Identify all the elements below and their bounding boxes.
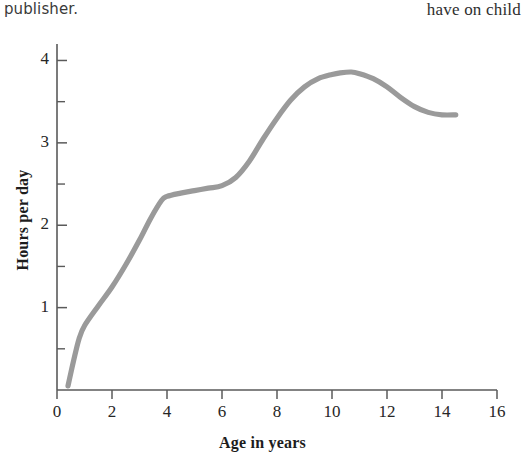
text-fragment-have-on-child: have on child bbox=[427, 0, 521, 20]
y-axis-title: Hours per day bbox=[14, 135, 32, 305]
chart-figure: 0246810121416 1234 Age in years Hours pe… bbox=[0, 26, 525, 466]
x-tick-label: 12 bbox=[367, 402, 407, 422]
page-root: publisher. have on child 0246810121416 1… bbox=[0, 0, 525, 466]
series-line-television-viewing bbox=[68, 72, 456, 386]
x-tick-label: 6 bbox=[202, 402, 242, 422]
x-tick-label: 8 bbox=[257, 402, 297, 422]
y-tick-label: 4 bbox=[19, 49, 49, 69]
x-tick-label: 10 bbox=[312, 402, 352, 422]
x-axis-ticks bbox=[57, 390, 497, 399]
x-tick-label: 16 bbox=[477, 402, 517, 422]
text-fragment-publisher: publisher. bbox=[4, 0, 78, 18]
x-tick-label: 0 bbox=[37, 402, 77, 422]
x-axis-title: Age in years bbox=[0, 434, 525, 452]
x-tick-label: 2 bbox=[92, 402, 132, 422]
x-tick-label: 4 bbox=[147, 402, 187, 422]
chart-plot-area bbox=[0, 26, 525, 466]
x-tick-label: 14 bbox=[422, 402, 462, 422]
y-axis-ticks bbox=[57, 60, 67, 348]
